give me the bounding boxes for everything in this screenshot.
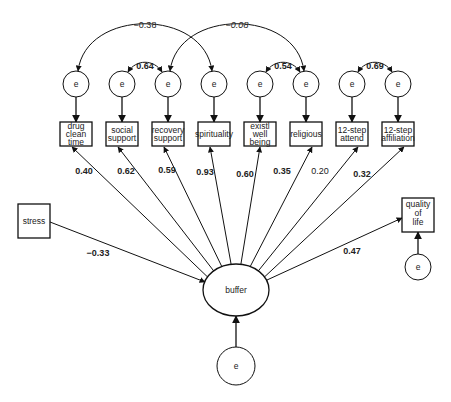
error-label: e — [166, 79, 171, 89]
error-label: e — [120, 79, 125, 89]
indicator-label-religious: religious — [290, 129, 322, 139]
quality-error-label: e — [416, 262, 421, 272]
loading-value-recovery: 0.59 — [158, 165, 176, 175]
error-label: e — [304, 79, 309, 89]
indicator-label-spirituality: spirituality — [195, 129, 234, 139]
buffer-to-quality-path — [267, 218, 402, 280]
indicator-label-affiliation: affiliation — [381, 133, 415, 143]
stress-path-value: −0.33 — [87, 248, 110, 258]
predictor-label: stress — [23, 216, 46, 226]
indicator-label-existl: being — [250, 137, 271, 147]
nodes-layer: edrugcleantimeesocialsupporterecoverysup… — [18, 71, 434, 385]
sem-diagram-svg: edrugcleantimeesocialsupporterecoverysup… — [0, 0, 451, 402]
covariance-value: 0.64 — [136, 61, 154, 71]
buffer-error-label: e — [234, 361, 239, 371]
loading-value-affiliation: 0.32 — [353, 169, 371, 179]
loading-value-religious: 0.35 — [273, 166, 291, 176]
loading-path-spirituality — [210, 147, 231, 265]
sem-diagram: edrugcleantimeesocialsupporterecoverysup… — [0, 0, 451, 402]
loading-value-drug: 0.40 — [75, 166, 93, 176]
loading-value-existl: 0.60 — [236, 169, 254, 179]
error-label: e — [212, 79, 217, 89]
covariance-value: 0.54 — [274, 61, 292, 71]
loading-value-social: 0.62 — [117, 166, 135, 176]
loading-path-existl — [241, 147, 260, 265]
indicator-label-drug: time — [68, 137, 84, 147]
indicator-label-social: support — [108, 133, 137, 143]
quality-path-value: 0.47 — [343, 246, 361, 256]
error-label: e — [74, 79, 79, 89]
loading-value-attend: 0.20 — [311, 166, 329, 176]
latent-label: buffer — [225, 285, 247, 295]
covariance-value: 0.69 — [366, 61, 384, 71]
indicator-label-recovery: support — [154, 133, 183, 143]
error-label: e — [350, 79, 355, 89]
covariance-value: −0.08 — [226, 20, 249, 30]
error-label: e — [396, 79, 401, 89]
covariance-value: −0.38 — [134, 20, 157, 30]
loading-value-spirituality: 0.93 — [196, 167, 214, 177]
outcome-label: life — [413, 217, 424, 227]
error-label: e — [258, 79, 263, 89]
indicator-label-attend: attend — [340, 133, 364, 143]
